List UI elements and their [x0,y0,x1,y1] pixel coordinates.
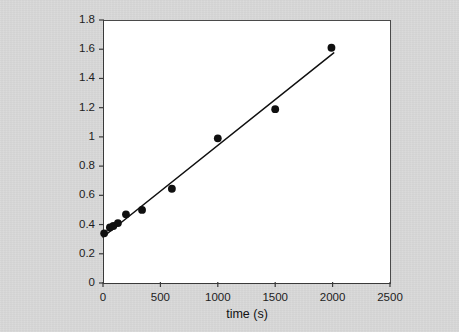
y-tick-label: 0.2 [55,248,95,260]
y-tick-label: 0.8 [55,160,95,172]
data-point [114,219,122,227]
y-tick-label: 0.4 [55,219,95,231]
figure-panel: 00.20.40.60.811.21.41.61.805001000150020… [0,0,459,332]
x-tick-label: 2500 [365,292,415,304]
axis-tick-marks [99,20,390,287]
data-point [328,44,336,52]
x-tick-label: 1000 [193,292,243,304]
y-tick-label: 0.6 [55,189,95,201]
data-point [122,210,130,218]
y-tick-label: 1.4 [55,72,95,84]
data-point [214,134,222,142]
trend-line-path [103,53,334,237]
y-tick-label: 1 [55,131,95,143]
x-tick-label: 500 [135,292,185,304]
data-point [271,105,279,113]
x-tick-label: 2000 [308,292,358,304]
x-tick-label: 0 [78,292,128,304]
x-axis-title: time (s) [103,307,391,321]
data-point-group [100,44,335,237]
x-tick-label: 1500 [250,292,300,304]
data-point [168,185,176,193]
data-point [100,229,108,237]
y-axis-title: 1/[lysine] (l/mg ) [56,0,74,38]
y-tick-label: 0 [55,277,95,289]
y-tick-label: 1.2 [55,102,95,114]
trend-line [103,53,334,237]
y-tick-label: 1.6 [55,43,95,55]
data-point [138,206,146,214]
